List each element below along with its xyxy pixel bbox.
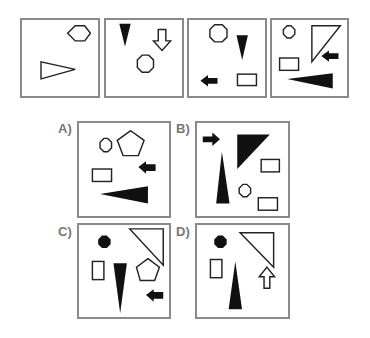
arrow-outline-up-icon (259, 267, 274, 288)
panel-4-shapes (272, 20, 347, 96)
arrow-filled-left-icon (138, 161, 155, 173)
cross-filled-icon (98, 236, 110, 248)
option-d-shapes (197, 225, 288, 317)
right-triangle-outline-icon (240, 233, 274, 267)
cross-octagon-icon (210, 25, 227, 42)
sequence-panel-3 (187, 18, 267, 98)
option-c-panel[interactable] (77, 223, 171, 319)
option-b-shapes (197, 123, 288, 216)
option-b-panel[interactable] (195, 121, 290, 218)
triangle-outline-icon (41, 62, 75, 79)
option-c-label: C) (58, 224, 72, 239)
panel-2-shapes (106, 20, 182, 96)
right-triangle-filled-icon (237, 135, 270, 169)
rectangle-icon (92, 169, 111, 181)
triangle-filled-up-icon (216, 152, 229, 204)
sequence-panel-1 (20, 18, 100, 98)
cross-small-icon (100, 138, 111, 151)
triangle-filled-down-icon (113, 263, 126, 313)
arrow-filled-left-icon (200, 75, 217, 86)
triangle-filled-up-icon (229, 261, 242, 309)
option-b-label: B) (176, 121, 190, 136)
pentagon-icon (117, 131, 144, 156)
option-a-panel[interactable] (77, 121, 171, 218)
rectangle-vertical-icon (210, 260, 221, 278)
option-d-panel[interactable] (195, 223, 290, 319)
cross-octagon-icon (137, 55, 153, 72)
arrow-filled-left-icon (321, 50, 338, 61)
option-a-shapes (79, 123, 169, 216)
option-a-label: A) (58, 121, 72, 136)
wedge-filled-left-icon (100, 186, 148, 203)
hexagon-icon (68, 26, 91, 41)
rectangle-icon (261, 159, 279, 171)
arrow-filled-left-icon (146, 289, 163, 301)
cross-small-icon (283, 26, 294, 38)
triangle-filled-down-icon (237, 35, 248, 60)
rectangle-icon (280, 58, 299, 70)
rectangle-vertical-icon (92, 261, 103, 279)
pentagon-icon (136, 259, 159, 281)
cross-filled-icon (214, 236, 226, 248)
option-d-label: D) (176, 224, 190, 239)
option-c-shapes (79, 225, 169, 317)
rectangle-icon (258, 198, 277, 210)
rectangle-icon (237, 74, 256, 85)
sequence-panel-4 (270, 18, 349, 98)
arrow-outline-down-icon (154, 30, 171, 51)
wedge-filled-left-icon (287, 73, 333, 88)
arrow-filled-right-icon (203, 133, 220, 146)
cross-small-icon (239, 184, 250, 196)
panel-1-shapes (22, 20, 98, 96)
panel-3-shapes (189, 20, 265, 96)
triangle-filled-down-icon (119, 24, 130, 47)
sequence-panel-2 (104, 18, 184, 98)
